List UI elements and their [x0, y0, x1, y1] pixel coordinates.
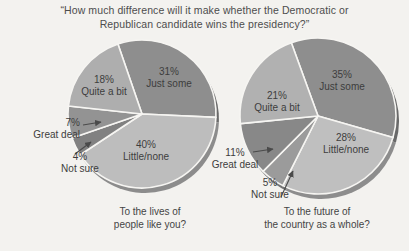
caption-left-pie: To the lives of people like you? [95, 205, 205, 231]
label-right-just-some: 35% Just some [310, 69, 374, 92]
label-left-not-sure: 4% Not sure [54, 151, 106, 174]
label-right-great-deal: 11% Great deal [205, 147, 265, 170]
label-right-not-sure: 5% Not sure [244, 177, 296, 200]
label-right-little-none: 28% Little/none [314, 132, 378, 155]
label-right-quite-a-bit: 21% Quite a bit [245, 90, 309, 113]
figure-pie-charts: “How much difference will it make whethe… [0, 0, 409, 251]
label-left-little-none: 40% Little/none [114, 139, 178, 162]
pie-right [240, 38, 399, 199]
label-left-just-some: 31% Just some [137, 66, 201, 89]
label-left-great-deal: 7% Great deal [16, 117, 80, 140]
label-left-quite-a-bit: 18% Quite a bit [72, 74, 136, 97]
caption-right-pie: To the future of the country as a whole? [247, 205, 387, 231]
